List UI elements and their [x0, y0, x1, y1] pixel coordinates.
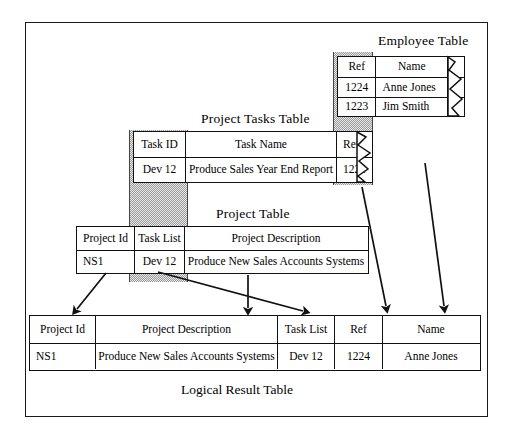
torn-edge-project-tasks: [357, 132, 370, 182]
connector-overlay: [0, 0, 512, 443]
arrow-task-list: [158, 272, 303, 311]
arrow-project-id: [77, 273, 106, 309]
torn-edge-employee: [448, 57, 462, 116]
arrow-name: [425, 163, 444, 306]
arrow-ref: [362, 187, 386, 306]
diagram-canvas: Employee Table Ref Name 1224 Anne Jones …: [0, 0, 512, 443]
